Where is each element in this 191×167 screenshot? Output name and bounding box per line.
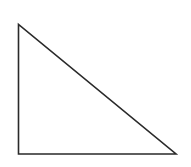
- diagram-canvas: [0, 0, 191, 167]
- triangle-figure: [0, 0, 191, 167]
- right-triangle: [19, 25, 177, 155]
